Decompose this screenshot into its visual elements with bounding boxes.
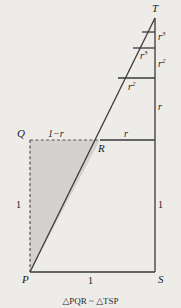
length-label-right-r3: r3 — [158, 31, 165, 42]
length-label-right-one: 1 — [158, 200, 163, 210]
figure-canvas — [0, 0, 181, 308]
vertex-label-p: P — [22, 274, 29, 285]
length-label-left-one: 1 — [16, 200, 21, 210]
length-label-one-minus-r: 1−r — [48, 129, 64, 139]
length-label-inner-r2: r2 — [128, 81, 135, 92]
length-label-right-r2-exp: 2 — [162, 57, 166, 65]
vertex-label-q: Q — [17, 128, 25, 139]
vertex-label-r: R — [98, 143, 105, 154]
figure-caption: △PQR ~ △TSP — [0, 296, 181, 308]
length-label-right-r-text: r — [158, 101, 162, 112]
geometry-figure: T Q R P S 1−r r 1 1 1 r r2 r3 r2 r3 △PQR… — [0, 0, 181, 308]
length-label-base-one: 1 — [88, 276, 93, 286]
length-label-right-r2: r2 — [158, 58, 165, 69]
length-label-inner-r3: r3 — [140, 50, 147, 61]
vertex-label-t: T — [152, 3, 158, 14]
length-label-inner-r3-exp: 3 — [144, 49, 148, 57]
vertex-label-s: S — [158, 274, 164, 285]
length-label-r-top: r — [124, 129, 128, 139]
length-label-right-r: r — [158, 102, 162, 112]
length-label-right-r3-exp: 3 — [162, 30, 166, 38]
length-label-inner-r2-exp: 2 — [132, 80, 136, 88]
shaded-triangle-pqr — [30, 140, 100, 272]
